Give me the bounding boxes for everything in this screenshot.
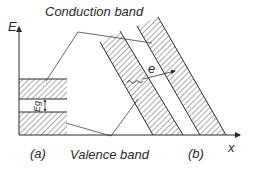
flat-valence-band xyxy=(19,112,67,135)
valence-band-label: Valence band xyxy=(70,148,149,161)
valence-band-leader xyxy=(66,99,138,136)
electron-label: e xyxy=(148,62,155,75)
flat-conduction-band xyxy=(19,79,67,99)
panel-b-label: (b) xyxy=(188,147,204,160)
position-axis-label: x xyxy=(228,141,235,154)
panel-a-label: (a) xyxy=(30,147,46,160)
conduction-band-label: Conduction band xyxy=(45,5,143,18)
energy-axis-label: E xyxy=(8,20,17,33)
band-gap-arrow xyxy=(44,100,47,112)
band-gap-label: Eg xyxy=(33,101,42,112)
